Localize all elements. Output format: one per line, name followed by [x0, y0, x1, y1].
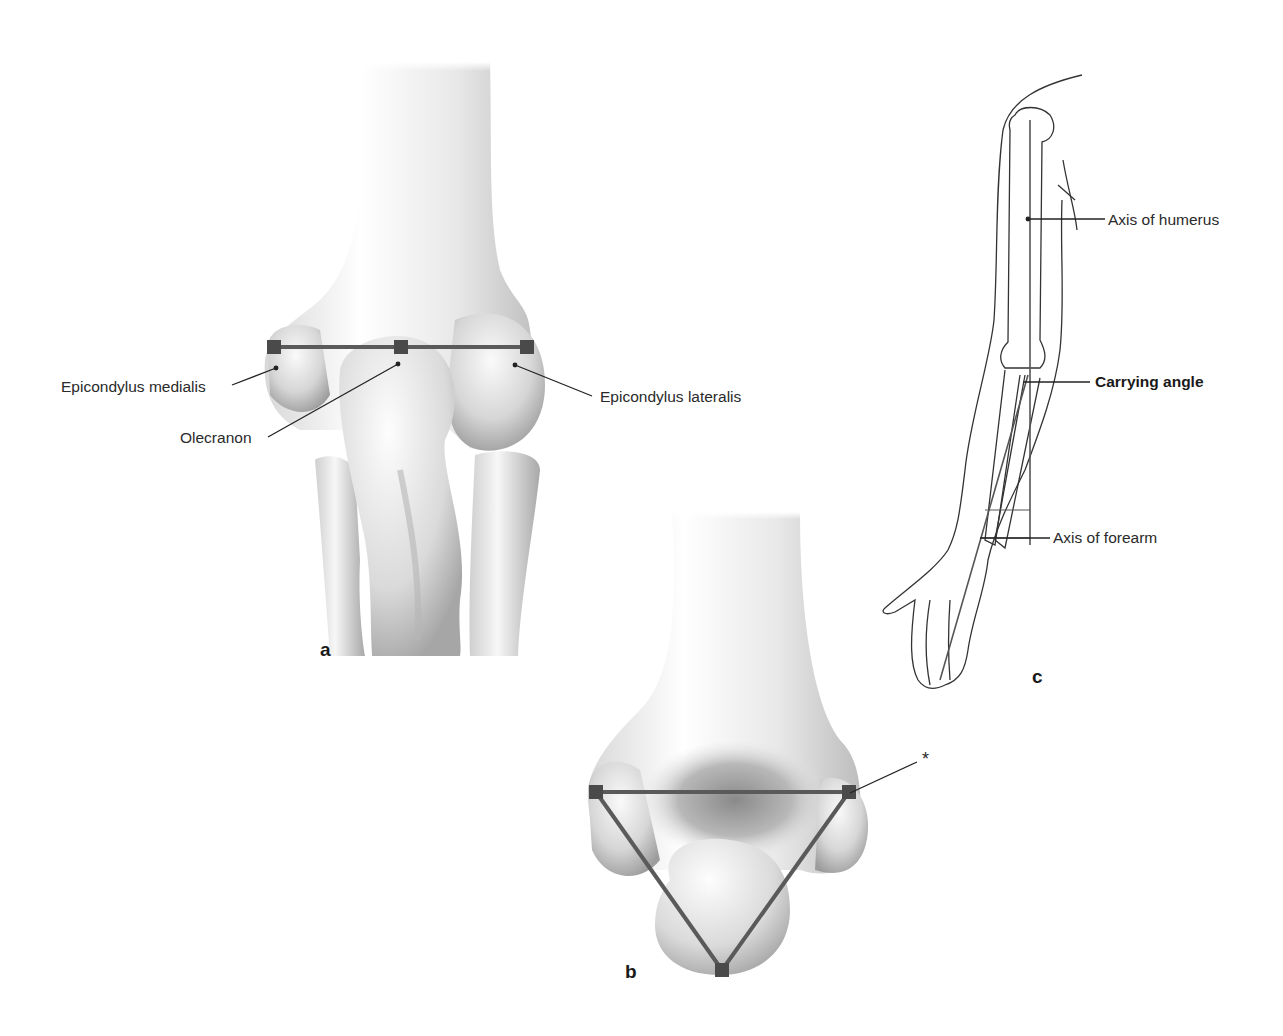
anatomy-figure: Epicondylus medialis Olecranon Epicondyl…	[0, 0, 1283, 1036]
panel-a-bones	[265, 62, 545, 656]
label-axis-of-forearm: Axis of forearm	[1053, 530, 1157, 546]
panel-c-leader-lines	[980, 217, 1105, 538]
panel-letter-c: c	[1032, 667, 1043, 686]
label-epicondylus-lateralis: Epicondylus lateralis	[600, 389, 741, 405]
panel-letter-a: a	[320, 640, 331, 659]
label-axis-of-humerus: Axis of humerus	[1108, 212, 1219, 228]
figure-artwork	[0, 0, 1283, 1036]
label-carrying-angle: Carrying angle	[1095, 374, 1204, 390]
marker-olecranon-b	[715, 963, 729, 977]
label-olecranon: Olecranon	[180, 430, 252, 446]
marker-medial-epicondyle-b	[589, 785, 603, 799]
panel-b-bones	[588, 512, 868, 975]
marker-lateral-epicondyle-b	[842, 785, 856, 799]
marker-medial-epicondyle	[267, 340, 281, 354]
marker-lateral-epicondyle	[520, 340, 534, 354]
forearm-axis-line	[940, 375, 1028, 680]
asterisk-leader-line	[850, 762, 917, 793]
label-asterisk: *	[922, 750, 929, 768]
label-epicondylus-medialis: Epicondylus medialis	[61, 379, 206, 395]
panel-letter-b: b	[625, 962, 637, 981]
marker-olecranon	[394, 340, 408, 354]
